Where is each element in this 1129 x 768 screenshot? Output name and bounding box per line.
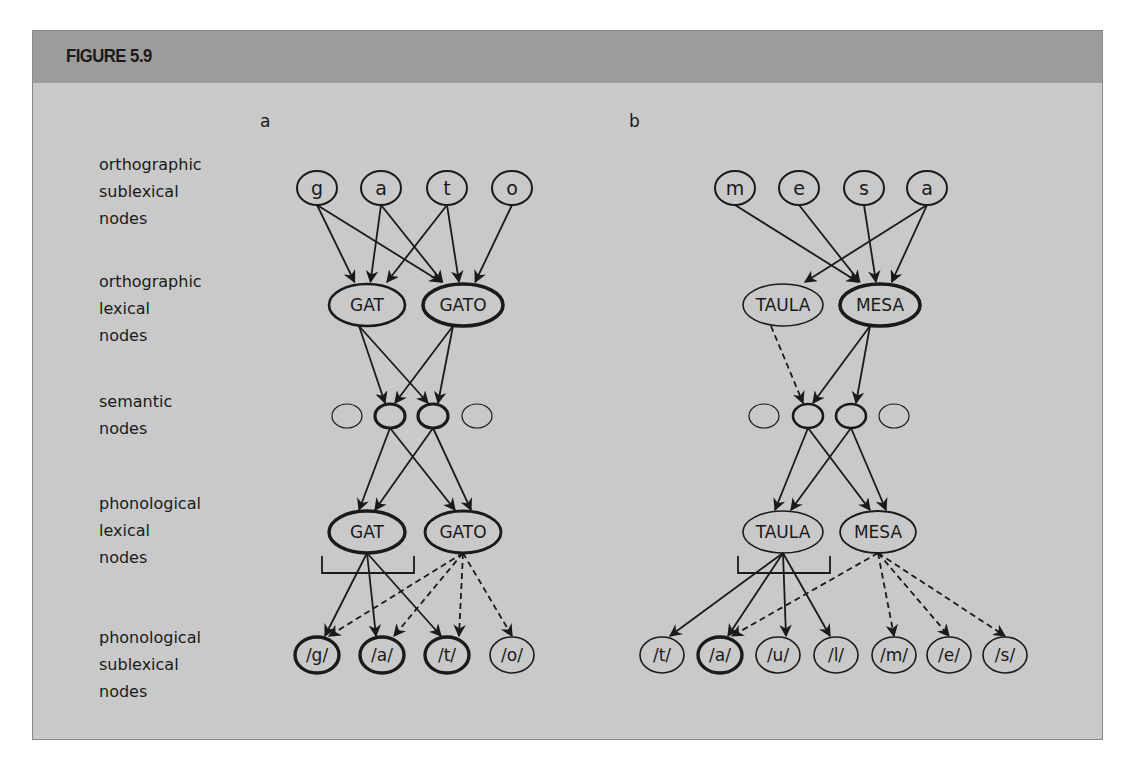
solid-arrow [447, 205, 459, 282]
ortho-letter-node-s: s [844, 171, 884, 205]
ortho-letter-node-a: a [361, 171, 401, 205]
solid-arrow [367, 553, 376, 636]
semantic-node-2-ellipse [375, 404, 405, 428]
phon-word-node-taula-label: TAULA [755, 522, 811, 542]
solid-arrow [856, 326, 870, 403]
phon-word-node-gato-label: GATO [439, 522, 486, 542]
phoneme-node-a: /a/ [698, 637, 742, 673]
phoneme-node-u-label: /u/ [767, 645, 790, 665]
solid-arrow [799, 205, 860, 282]
semantic-node-1-ellipse [332, 404, 362, 428]
solid-arrow [851, 428, 886, 510]
phoneme-node-m-label: /m/ [880, 645, 908, 665]
dashed-arrow [878, 553, 1005, 636]
semantic-node-3-ellipse [418, 404, 448, 428]
solid-arrow [433, 428, 471, 510]
phon-word-node-gato: GATO [425, 511, 501, 553]
phoneme-node-t: /t/ [425, 637, 469, 673]
dashed-arrow [329, 553, 463, 636]
ortho-letter-node-m-label: m [726, 177, 745, 199]
nodes-layer: gatoGATGATOGATGATO/g//a//t//o/mesaTAULAM… [295, 171, 1027, 673]
phoneme-node-e: /e/ [927, 637, 971, 673]
solid-arrow [808, 428, 870, 510]
network-diagram: gatoGATGATOGATGATO/g//a//t//o/mesaTAULAM… [0, 0, 1129, 768]
semantic-node-3 [836, 404, 866, 428]
phoneme-node-o: /o/ [490, 637, 534, 673]
dashed-arrow [878, 553, 894, 636]
semantic-node-1-ellipse [749, 404, 779, 428]
dashed-arrow [459, 553, 463, 636]
ortho-letter-node-m: m [715, 171, 755, 205]
solid-arrow [375, 428, 433, 510]
solid-arrow [395, 326, 453, 403]
solid-arrow [791, 428, 851, 510]
solid-arrow [775, 428, 808, 510]
phoneme-node-a-label: /a/ [709, 645, 731, 665]
semantic-node-3-ellipse [836, 404, 866, 428]
phon-word-node-gat: GAT [329, 511, 405, 553]
ortho-word-node-gato: GATO [423, 284, 503, 326]
ortho-word-node-gat-label: GAT [350, 295, 384, 315]
dashed-arrow [463, 553, 512, 636]
ortho-letter-node-o-label: o [506, 177, 518, 199]
solid-arrow [670, 553, 783, 636]
solid-arrow [438, 326, 453, 403]
phoneme-node-s-label: /s/ [995, 645, 1016, 665]
ortho-word-node-taula: TAULA [743, 284, 823, 326]
phoneme-node-u: /u/ [756, 637, 800, 673]
solid-arrow [359, 326, 428, 403]
solid-arrow [813, 326, 870, 403]
ortho-letter-node-e: e [779, 171, 819, 205]
semantic-node-4 [879, 404, 909, 428]
phoneme-node-l-label: /l/ [828, 645, 844, 665]
ortho-letter-node-t: t [427, 171, 467, 205]
phoneme-node-m: /m/ [872, 637, 916, 673]
phoneme-node-a: /a/ [360, 637, 404, 673]
ortho-letter-node-a-label: a [375, 177, 387, 199]
semantic-node-2 [793, 404, 823, 428]
solid-arrow [390, 428, 455, 510]
ortho-letter-node-t-label: t [443, 177, 450, 199]
phoneme-node-t: /t/ [640, 637, 684, 673]
phon-word-node-mesa-label: MESA [854, 522, 903, 542]
ortho-letter-node-o: o [492, 171, 532, 205]
phoneme-node-t-label: /t/ [438, 645, 456, 665]
ortho-letter-node-a: a [907, 171, 947, 205]
ortho-word-node-gat: GAT [329, 284, 405, 326]
phoneme-node-t-label: /t/ [653, 645, 671, 665]
solid-arrow [387, 205, 447, 282]
solid-arrow [359, 326, 385, 403]
semantic-node-2-ellipse [793, 404, 823, 428]
ortho-letter-node-g: g [297, 171, 337, 205]
solid-arrow [475, 205, 512, 282]
solid-arrow [359, 428, 390, 510]
dashed-arrow [732, 553, 878, 636]
solid-arrow [783, 553, 786, 636]
ortho-word-node-taula-label: TAULA [755, 295, 811, 315]
ortho-letter-node-g-label: g [311, 177, 323, 199]
semantic-node-1 [749, 404, 779, 428]
solid-arrow [325, 553, 367, 636]
phoneme-node-g-label: /g/ [306, 645, 329, 665]
phon-word-node-mesa: MESA [840, 511, 916, 553]
phoneme-node-s: /s/ [983, 637, 1027, 673]
ortho-word-node-mesa-label: MESA [856, 295, 905, 315]
phoneme-node-o-label: /o/ [501, 645, 523, 665]
semantic-node-2 [375, 404, 405, 428]
solid-arrow [735, 205, 858, 282]
semantic-node-4 [462, 404, 492, 428]
phon-word-node-taula: TAULA [743, 511, 823, 553]
phoneme-node-a-label: /a/ [371, 645, 393, 665]
semantic-node-3 [418, 404, 448, 428]
ortho-letter-node-a-label: a [921, 177, 933, 199]
ortho-word-node-gato-label: GATO [439, 295, 486, 315]
dashed-arrow [878, 553, 949, 636]
ortho-letter-node-e-label: e [793, 177, 805, 199]
phoneme-node-g: /g/ [295, 637, 339, 673]
phon-word-node-gat-label: GAT [350, 522, 384, 542]
ortho-letter-node-s-label: s [859, 177, 869, 199]
solid-arrow [381, 205, 443, 282]
semantic-node-4-ellipse [879, 404, 909, 428]
phoneme-node-e-label: /e/ [938, 645, 960, 665]
semantic-node-1 [332, 404, 362, 428]
